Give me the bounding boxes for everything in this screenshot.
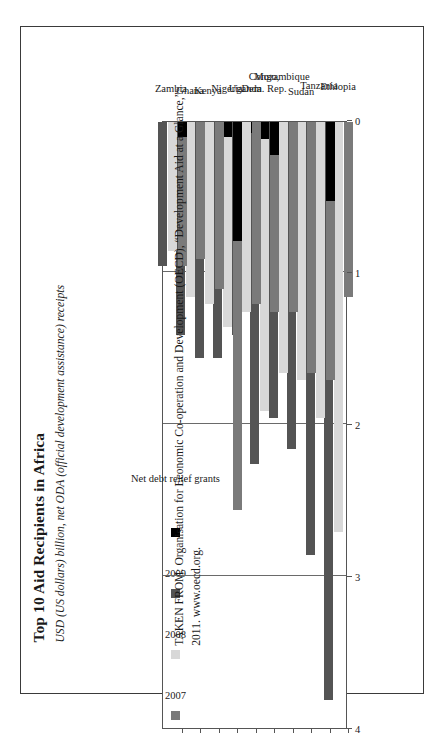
bar-2009[interactable] [158,122,167,266]
bar-segment-debt-relief [233,122,242,241]
category-tick [200,728,201,733]
source-line-1: TAKEN FROM: Organisation for Economic Co… [172,86,189,646]
bar-segment-oda [326,201,335,380]
figure-container: Top 10 Aid Recipients in Africa USD (US … [20,26,424,694]
bar-2008[interactable] [316,122,325,418]
axis-tick-value: 2 [355,420,360,431]
category-tick [330,728,331,733]
bar-segment-oda [297,122,306,380]
axis-tick-label: 0 [352,118,363,123]
bar-segment-oda [270,155,279,312]
bar-segment-debt-relief [260,122,269,139]
bar-segment-oda [260,139,269,411]
axis-tick-value: 0 [355,116,360,127]
category-tick [293,728,294,733]
bar-2007[interactable] [233,122,242,510]
bar-segment-oda [215,122,224,289]
axis-tick-value: 1 [355,268,360,279]
axis-tick-label: 2 [352,422,363,427]
bar-segment-oda [334,122,343,532]
bar-2007[interactable] [215,122,224,289]
axis-tick-value: 4 [355,724,360,735]
bar-2007[interactable] [270,122,279,312]
source-note: TAKEN FROM: Organisation for Economic Co… [172,86,206,646]
bar-segment-debt-relief [223,122,232,137]
bar-2007[interactable] [252,122,261,304]
category-tick [274,728,275,733]
bar-segment-oda [158,122,167,266]
axis-tick-label: 4 [352,726,363,731]
bar-2008[interactable] [205,122,214,304]
bar-2008[interactable] [279,122,288,373]
bar-segment-oda [279,122,288,373]
bar-2008[interactable] [242,122,251,312]
bar-segment-oda [289,122,298,312]
bar-segment-debt-relief [326,122,335,201]
page-title: Top 10 Aid Recipients in Africa [30,33,48,643]
category-label: Tanzania [313,67,325,105]
axis-tick-label: 1 [352,270,363,275]
title-block: Top 10 Aid Recipients in Africa USD (US … [30,33,67,643]
bar-2007[interactable] [307,122,316,373]
axis-tick-label: 3 [352,574,363,579]
category-tick [219,728,220,733]
bar-segment-oda [233,241,242,510]
category-tick [256,728,257,733]
axis-tick-value: 3 [355,572,360,583]
bar-segment-oda [252,122,261,304]
bar-segment-oda [205,122,214,304]
category-tick [237,728,238,733]
bar-segment-oda [223,137,232,327]
category-tick [311,728,312,733]
category-tick [182,728,183,733]
category-label-text: Sudan [288,86,314,98]
bar-segment-debt-relief [270,122,279,155]
category-label: Nigeria [221,74,233,106]
bar-2007[interactable] [289,122,298,312]
bar-segment-oda [307,122,316,373]
chart-subtitle: USD (US dollars) billion, net ODA (offic… [54,33,67,643]
bar-segment-oda [242,122,251,312]
bar-2008[interactable] [223,122,232,327]
bar-2008[interactable] [297,122,306,380]
bar-2008[interactable] [334,122,343,532]
bar-segment-oda [316,122,325,418]
source-line-2: 2011. www.oecd.org. [189,86,206,646]
bar-2008[interactable] [260,122,269,411]
bar-2007[interactable] [326,122,335,380]
